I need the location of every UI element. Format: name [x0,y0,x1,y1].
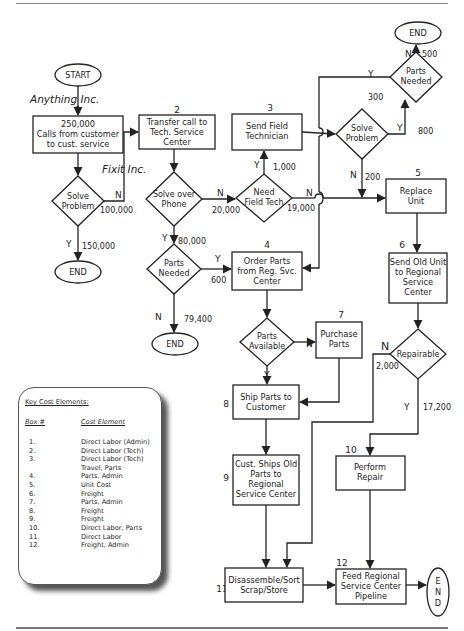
box-8-ship-parts: 8 Ship Parts to Customer [223,385,299,419]
decision-solve-over-phone: Solve over Phone [146,172,202,226]
svg-text:END: END [166,339,184,349]
svg-text:9: 9 [223,473,229,483]
svg-text:20,000: 20,000 [212,206,240,215]
svg-text:2: 2 [174,105,180,115]
box-5-replace-unit: 5 Replace Unit [386,168,446,213]
key-cost-elements-panel: Key Cost Elements: Box # Cost Element 1.… [18,387,162,585]
svg-text:Calls from customer: Calls from customer [37,129,120,139]
svg-text:N: N [306,188,313,198]
svg-text:Repair: Repair [357,472,384,482]
key-row: 2.Direct Labor (Tech) [25,447,150,456]
svg-text:Y: Y [65,239,72,249]
svg-text:Needed: Needed [159,269,190,278]
box-2-transfer-call: 2 Transfer call to Tech. Service Center [139,105,215,149]
svg-text:Perform: Perform [354,462,386,472]
svg-text:to cust. service: to cust. service [47,139,110,149]
svg-text:300: 300 [368,93,383,102]
box-12-feed-regional: 12 Feed Regional Service Center Pipeline [336,558,406,604]
svg-text:Repairable: Repairable [397,350,440,359]
svg-text:Solve: Solve [67,192,89,201]
svg-text:Purchase: Purchase [320,329,357,339]
svg-text:Transfer call to: Transfer call to [146,117,207,127]
svg-text:80,000: 80,000 [178,237,206,246]
box-11-disassemble: 11 Disassemble/Sort Scrap/Store [216,568,303,602]
svg-text:Send Old Unit: Send Old Unit [390,257,447,267]
svg-text:START: START [65,70,91,80]
key-row: 6.Freight [25,490,150,499]
svg-text:Parts: Parts [164,259,184,268]
box-7-purchase-parts: 7 Purchase Parts [316,310,362,358]
svg-text:Parts: Parts [257,332,277,341]
svg-text:8: 8 [223,399,229,409]
decision-parts-needed-middle: Parts Needed [147,244,201,294]
svg-text:END: END [69,267,87,277]
svg-text:Ship Parts to: Ship Parts to [240,392,292,402]
svg-text:4: 4 [264,240,270,250]
svg-text:5: 5 [415,168,421,178]
key-title: Key Cost Elements: [25,398,89,406]
key-row: 5.Unit Cost [25,481,150,490]
svg-text:Center: Center [404,287,432,297]
box-6-send-old-unit: 6 Send Old Unit to Regional Service Cent… [389,240,447,303]
key-col-box: Box # [25,418,45,426]
svg-text:Y: Y [367,69,374,79]
key-col-cost: Cost Element [81,418,125,426]
svg-text:Order Parts: Order Parts [244,256,290,266]
svg-text:Cust. Ships Old: Cust. Ships Old [235,459,297,469]
end-terminal-left: END [55,261,101,283]
svg-text:Center: Center [163,137,191,147]
decision-repairable: Repairable [390,329,446,379]
svg-text:E: E [435,576,440,586]
end-terminal-middle: END [152,333,198,355]
svg-text:Solve over: Solve over [153,190,196,199]
svg-text:Service Center: Service Center [341,581,402,591]
svg-text:END: END [409,28,427,38]
svg-text:500: 500 [422,50,437,59]
decision-need-field-tech: Need Field Tech [236,174,292,222]
svg-text:Unit: Unit [408,196,425,206]
svg-text:from Reg. Svc.: from Reg. Svc. [237,266,297,276]
svg-text:Pipeline: Pipeline [355,591,387,601]
svg-text:Y: Y [263,370,270,380]
svg-text:N: N [381,340,389,353]
svg-text:Feed Regional: Feed Regional [342,571,399,581]
svg-text:800: 800 [418,127,433,136]
key-row: 9.Freight [25,515,150,524]
end-terminal-vertical: E N D [427,568,449,616]
key-row: 1.Direct Labor (Admin) [25,438,150,447]
svg-text:Parts: Parts [329,339,349,349]
box-9-cust-ships-old-parts: 9 Cust. Ships Old Parts to Regional Serv… [223,455,299,505]
svg-text:Tech. Service: Tech. Service [149,127,204,137]
svg-text:Y: Y [253,160,260,170]
svg-text:17,200: 17,200 [423,403,451,412]
key-row: 4.Parts, Admin [25,472,150,481]
decision-solve-problem-1: Solve Problem [52,176,104,226]
svg-text:Service: Service [403,277,433,287]
decision-parts-needed-top: Parts Needed [390,52,442,102]
svg-text:N: N [155,312,162,322]
svg-text:3: 3 [267,103,273,113]
company-anything-inc: Anything Inc. [29,93,99,105]
svg-text:600: 600 [211,276,226,285]
svg-text:Parts to: Parts to [250,469,281,479]
svg-text:200: 200 [365,173,380,182]
svg-text:D: D [435,598,441,608]
svg-text:12: 12 [336,558,347,568]
svg-text:Solve: Solve [351,124,373,133]
svg-text:Disassemble/Sort: Disassemble/Sort [228,575,300,585]
key-row: 11.Direct Labor [25,533,150,542]
svg-text:Needed: Needed [401,77,432,86]
svg-text:Customer: Customer [246,402,286,412]
svg-text:N: N [306,339,313,349]
svg-text:Scrap/Store: Scrap/Store [240,585,288,595]
svg-text:7: 7 [338,310,344,320]
decision-solve-problem-2: Solve Problem [336,109,388,159]
key-row: 7.Parts, Admin [25,498,150,507]
key-row: Travel, Parts [25,464,150,473]
key-row: 12.Freight, Admin [25,541,150,550]
svg-text:Regional: Regional [248,479,283,489]
svg-text:10: 10 [345,445,357,455]
svg-text:Available: Available [249,342,285,351]
svg-text:N: N [405,49,412,59]
svg-text:Replace: Replace [400,186,432,196]
